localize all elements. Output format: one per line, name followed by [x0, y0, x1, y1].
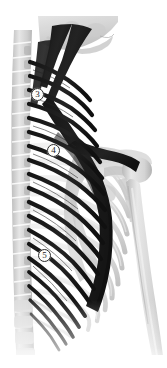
callout-marker-3[interactable]: 3: [31, 88, 44, 101]
callout-layer: 3 4 5: [0, 0, 167, 368]
callout-marker-4[interactable]: 4: [47, 144, 60, 157]
anatomical-figure: 3 4 5: [0, 0, 167, 368]
callout-label-5: 5: [42, 251, 47, 260]
callout-label-4: 4: [51, 146, 56, 155]
callout-marker-5[interactable]: 5: [38, 249, 51, 262]
callout-label-3: 3: [35, 90, 40, 99]
